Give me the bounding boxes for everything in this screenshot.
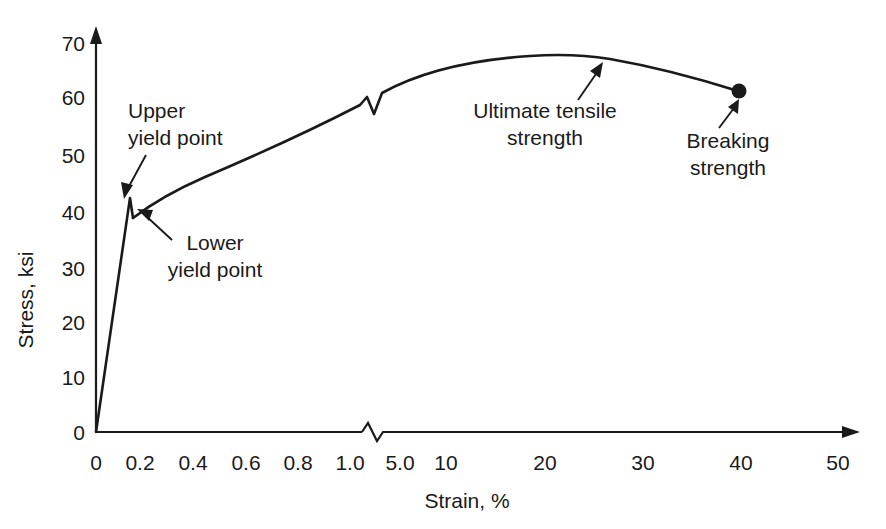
- x-tick-label-30: 30: [631, 451, 654, 474]
- y-axis-arrowhead: [90, 26, 102, 44]
- annotation-upper-yield-point: Upper yield point: [121, 99, 223, 199]
- y-axis: [90, 26, 102, 432]
- x-axis: [96, 423, 860, 441]
- annotation-breaking-strength: Breaking strength: [687, 99, 770, 179]
- y-axis-title: Stress, ksi: [14, 252, 37, 349]
- breaking-strength-leader: [719, 108, 734, 128]
- x-tick-label-50: 50: [826, 451, 849, 474]
- x-tick-label-0-8: 0.8: [283, 451, 312, 474]
- ultimate-tensile-strength-leader: [578, 71, 598, 100]
- lower-yield-point-leader: [146, 216, 172, 240]
- x-tick-label-20: 20: [533, 451, 556, 474]
- lower-yield-point-label-line1: Lower: [186, 231, 243, 254]
- x-tick-label-0: 0: [90, 451, 102, 474]
- y-tick-label-0: 0: [73, 421, 85, 444]
- curve-elastic-region: [96, 198, 133, 432]
- breaking-point-marker: [732, 84, 747, 99]
- y-tick-labels: 0 10 20 30 40 50 60 70: [62, 32, 85, 444]
- ultimate-tensile-strength-label-line1: Ultimate tensile: [473, 99, 617, 122]
- upper-yield-point-label-line1: Upper: [128, 99, 185, 122]
- x-tick-label-0-2: 0.2: [125, 451, 154, 474]
- y-tick-label-50: 50: [62, 144, 85, 167]
- x-tick-label-0-4: 0.4: [178, 451, 208, 474]
- x-tick-label-5-0: 5.0: [385, 451, 414, 474]
- x-axis-break-and-right: [362, 423, 846, 441]
- x-tick-label-10: 10: [434, 451, 457, 474]
- x-tick-label-1-0: 1.0: [335, 451, 364, 474]
- annotation-ultimate-tensile-strength: Ultimate tensile strength: [473, 62, 617, 149]
- x-tick-label-0-6: 0.6: [231, 451, 260, 474]
- breaking-strength-label-line1: Breaking: [687, 129, 770, 152]
- ultimate-tensile-strength-label-line2: strength: [507, 126, 583, 149]
- x-tick-labels: 0 0.2 0.4 0.6 0.8 1.0 5.0 10 20 30 40 50: [90, 451, 850, 474]
- x-axis-arrowhead: [842, 426, 860, 438]
- y-tick-label-10: 10: [62, 366, 85, 389]
- curve-plastic-region: [133, 55, 738, 218]
- y-tick-label-20: 20: [62, 311, 85, 334]
- y-tick-label-60: 60: [62, 86, 85, 109]
- x-tick-label-40: 40: [729, 451, 752, 474]
- annotation-lower-yield-point: Lower yield point: [137, 209, 262, 281]
- y-tick-label-30: 30: [62, 257, 85, 280]
- y-tick-label-70: 70: [62, 32, 85, 55]
- lower-yield-point-label-line2: yield point: [168, 258, 263, 281]
- y-tick-label-40: 40: [62, 201, 85, 224]
- stress-strain-chart: 0 10 20 30 40 50 60 70 Stress, ksi 0 0.2…: [0, 0, 886, 529]
- upper-yield-point-arrowhead: [121, 182, 133, 199]
- ultimate-tensile-strength-arrowhead: [590, 62, 603, 78]
- x-axis-title: Strain, %: [424, 489, 509, 512]
- upper-yield-point-label-line2: yield point: [128, 126, 223, 149]
- breaking-strength-arrowhead: [728, 99, 739, 114]
- breaking-strength-label-line2: strength: [690, 156, 766, 179]
- chart-canvas: 0 10 20 30 40 50 60 70 Stress, ksi 0 0.2…: [0, 0, 886, 529]
